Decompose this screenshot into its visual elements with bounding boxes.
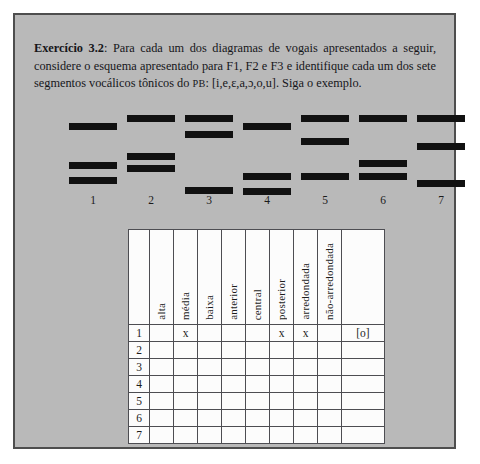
formant-bar: [359, 173, 407, 180]
cell-nao-arredondada[interactable]: [318, 393, 342, 410]
cell-nao-arredondada[interactable]: [318, 410, 342, 427]
row-number: 1: [129, 325, 150, 342]
cell-baixa[interactable]: [198, 325, 222, 342]
cell-media[interactable]: [174, 427, 198, 444]
column-header-label: central: [252, 289, 263, 320]
cell-answer[interactable]: [342, 427, 385, 444]
row-number: 4: [129, 376, 150, 393]
cell-central[interactable]: [246, 359, 270, 376]
formant-bar: [127, 165, 175, 172]
formant-diagram-7: 7: [413, 108, 469, 210]
cell-alta[interactable]: [150, 342, 174, 359]
cell-alta[interactable]: [150, 410, 174, 427]
cell-media[interactable]: x: [174, 325, 198, 342]
cell-alta[interactable]: [150, 359, 174, 376]
row-number: 3: [129, 359, 150, 376]
formant-bar: [127, 153, 175, 160]
diagram-label-4: 4: [239, 194, 295, 206]
page-canvas: Exercício 3.2: Para cada um dos diagrama…: [0, 0, 480, 464]
cell-alta[interactable]: [150, 393, 174, 410]
row-number: 6: [129, 410, 150, 427]
formant-bar: [185, 131, 233, 138]
language-abbreviation: PB: [192, 78, 205, 89]
answer-table: alta média baixa anterior central poster…: [128, 229, 385, 444]
cell-baixa[interactable]: [198, 376, 222, 393]
worksheet-panel: Exercício 3.2: Para cada um dos diagrama…: [13, 13, 456, 449]
cell-central[interactable]: [246, 393, 270, 410]
cell-central[interactable]: [246, 410, 270, 427]
column-header-arredondada: arredondada: [294, 230, 318, 325]
cell-answer[interactable]: [342, 376, 385, 393]
cell-media[interactable]: [174, 376, 198, 393]
column-header-label: média: [180, 292, 191, 320]
formant-bar: [69, 177, 117, 184]
cell-posterior[interactable]: x: [270, 325, 294, 342]
cell-baixa[interactable]: [198, 410, 222, 427]
formant-diagram-5: 5: [297, 108, 353, 210]
cell-alta[interactable]: [150, 427, 174, 444]
cell-nao-arredondada[interactable]: [318, 359, 342, 376]
diagram-label-5: 5: [297, 194, 353, 206]
table-corner-header: [129, 230, 150, 325]
cell-answer[interactable]: [342, 410, 385, 427]
cell-arredondada[interactable]: [294, 427, 318, 444]
table-row: 3: [129, 359, 385, 376]
formant-bar: [417, 143, 465, 150]
cell-anterior[interactable]: [222, 393, 246, 410]
cell-central[interactable]: [246, 376, 270, 393]
cell-answer[interactable]: [342, 359, 385, 376]
formant-bar: [359, 115, 407, 122]
cell-anterior[interactable]: [222, 427, 246, 444]
cell-alta[interactable]: [150, 325, 174, 342]
cell-anterior[interactable]: [222, 410, 246, 427]
column-header-media: média: [174, 230, 198, 325]
cell-arredondada[interactable]: [294, 376, 318, 393]
cell-arredondada[interactable]: [294, 342, 318, 359]
table-header-row: alta média baixa anterior central poster…: [129, 230, 385, 325]
cell-baixa[interactable]: [198, 359, 222, 376]
cell-central[interactable]: [246, 427, 270, 444]
formant-bar: [243, 173, 291, 180]
cell-media[interactable]: [174, 393, 198, 410]
cell-answer[interactable]: [342, 393, 385, 410]
cell-alta[interactable]: [150, 376, 174, 393]
cell-posterior[interactable]: [270, 393, 294, 410]
cell-arredondada[interactable]: [294, 410, 318, 427]
cell-arredondada[interactable]: [294, 359, 318, 376]
cell-baixa[interactable]: [198, 342, 222, 359]
cell-baixa[interactable]: [198, 393, 222, 410]
diagram-label-3: 3: [181, 194, 237, 206]
cell-posterior[interactable]: [270, 376, 294, 393]
cell-anterior[interactable]: [222, 376, 246, 393]
cell-answer[interactable]: [342, 342, 385, 359]
formant-bar: [243, 123, 291, 130]
cell-anterior[interactable]: [222, 342, 246, 359]
cell-posterior[interactable]: [270, 359, 294, 376]
cell-posterior[interactable]: [270, 427, 294, 444]
cell-arredondada[interactable]: [294, 393, 318, 410]
diagram-label-2: 2: [123, 194, 179, 206]
column-header-central: central: [246, 230, 270, 325]
cell-posterior[interactable]: [270, 342, 294, 359]
column-header-answer: [342, 230, 385, 325]
column-header-alta: alta: [150, 230, 174, 325]
cell-central[interactable]: [246, 342, 270, 359]
table-row: 7: [129, 427, 385, 444]
cell-media[interactable]: [174, 410, 198, 427]
cell-nao-arredondada[interactable]: [318, 427, 342, 444]
cell-posterior[interactable]: [270, 410, 294, 427]
formant-bar: [127, 115, 175, 122]
column-header-label: alta: [156, 303, 167, 320]
cell-central[interactable]: [246, 325, 270, 342]
cell-answer[interactable]: [o]: [342, 325, 385, 342]
cell-baixa[interactable]: [198, 427, 222, 444]
cell-anterior[interactable]: [222, 325, 246, 342]
cell-nao-arredondada[interactable]: [318, 342, 342, 359]
cell-nao-arredondada[interactable]: [318, 376, 342, 393]
cell-anterior[interactable]: [222, 359, 246, 376]
cell-nao-arredondada[interactable]: [318, 325, 342, 342]
cell-arredondada[interactable]: x: [294, 325, 318, 342]
cell-media[interactable]: [174, 342, 198, 359]
formant-diagram-2: 2: [123, 108, 179, 210]
cell-media[interactable]: [174, 359, 198, 376]
